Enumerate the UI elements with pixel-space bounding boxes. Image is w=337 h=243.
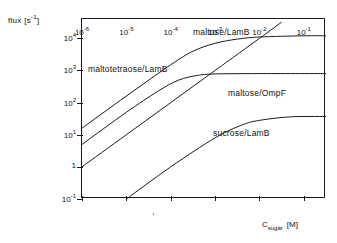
x-axis-tick	[126, 196, 127, 201]
y-axis-tick	[77, 103, 83, 104]
y-axis-tick	[77, 38, 83, 39]
y-axis-tick	[77, 70, 83, 71]
scan-artifact-speck	[153, 213, 154, 215]
tick-exponent: -6	[84, 26, 89, 32]
x-axis-tick-label: 10-5	[119, 26, 133, 37]
y-axis-label: flux [s-1]	[8, 14, 39, 25]
curve-label-maltose-ompf: maltose/OmpF	[228, 88, 286, 98]
y-axis-tick-label: 10-1	[62, 193, 76, 204]
curve-label-maltose-lamb: maltose/LamB	[193, 27, 250, 37]
tick-mantissa: 10	[252, 28, 261, 37]
tick-mantissa: 10	[64, 98, 73, 107]
curve-canvas	[82, 19, 326, 199]
y-axis-label-text: flux [s	[8, 16, 31, 25]
y-axis-tick-label: 103	[64, 64, 76, 75]
tick-mantissa: 10	[75, 28, 84, 37]
tick-mantissa: 10	[64, 66, 73, 75]
tick-exponent: -2	[261, 26, 266, 32]
x-axis-tick-label: 10-1	[297, 26, 311, 37]
y-axis-tick-label: 101	[64, 129, 76, 140]
tick-exponent: 1	[73, 129, 76, 135]
tick-exponent: -1	[306, 26, 311, 32]
tick-exponent: 2	[73, 97, 76, 103]
x-axis-tick	[304, 196, 305, 201]
y-axis-tick-label: 1	[72, 161, 76, 170]
tick-mantissa: 10	[62, 195, 71, 204]
y-axis-tick-label: 102	[64, 97, 76, 108]
tick-mantissa: 10	[64, 34, 73, 43]
plot-area: 104103102101110-110-610-510-410-310-210-…	[81, 18, 325, 198]
x-axis-tick-label: 10-2	[252, 26, 266, 37]
y-axis-tick	[77, 167, 83, 168]
x-axis-tick-label: 10-6	[75, 26, 89, 37]
curve-label-sucrose-lamb: sucrose/LamB	[213, 128, 270, 138]
x-axis-label-subscript: sugar	[268, 225, 283, 231]
x-axis-tick	[171, 196, 172, 201]
y-axis-tick	[77, 135, 83, 136]
flux-vs-concentration-figure: flux [s-1] Csugar[M] 104103102101110-110…	[0, 0, 337, 243]
tick-exponent: -1	[71, 193, 76, 199]
y-axis-label-tail: ]	[37, 16, 40, 25]
x-axis-tick-label: 10-4	[164, 26, 178, 37]
x-axis-tick	[82, 196, 83, 201]
x-axis-tick	[259, 196, 260, 201]
tick-mantissa: 10	[119, 28, 128, 37]
tick-exponent: 3	[73, 64, 76, 70]
tick-mantissa: 10	[164, 28, 173, 37]
curve-label-maltotetraose-lamb: maltotetraose/LamB	[88, 64, 168, 74]
x-axis-tick	[215, 196, 216, 201]
tick-mantissa: 10	[64, 130, 73, 139]
tick-mantissa: 10	[297, 28, 306, 37]
tick-exponent: -4	[173, 26, 178, 32]
x-axis-label: Csugar[M]	[262, 220, 298, 231]
tick-mantissa: 1	[72, 161, 76, 170]
curve-maltotetraose-lamb	[82, 74, 326, 145]
curve-maltose-lamb	[82, 36, 326, 128]
tick-exponent: -5	[128, 26, 133, 32]
x-axis-label-unit: [M]	[287, 220, 298, 229]
